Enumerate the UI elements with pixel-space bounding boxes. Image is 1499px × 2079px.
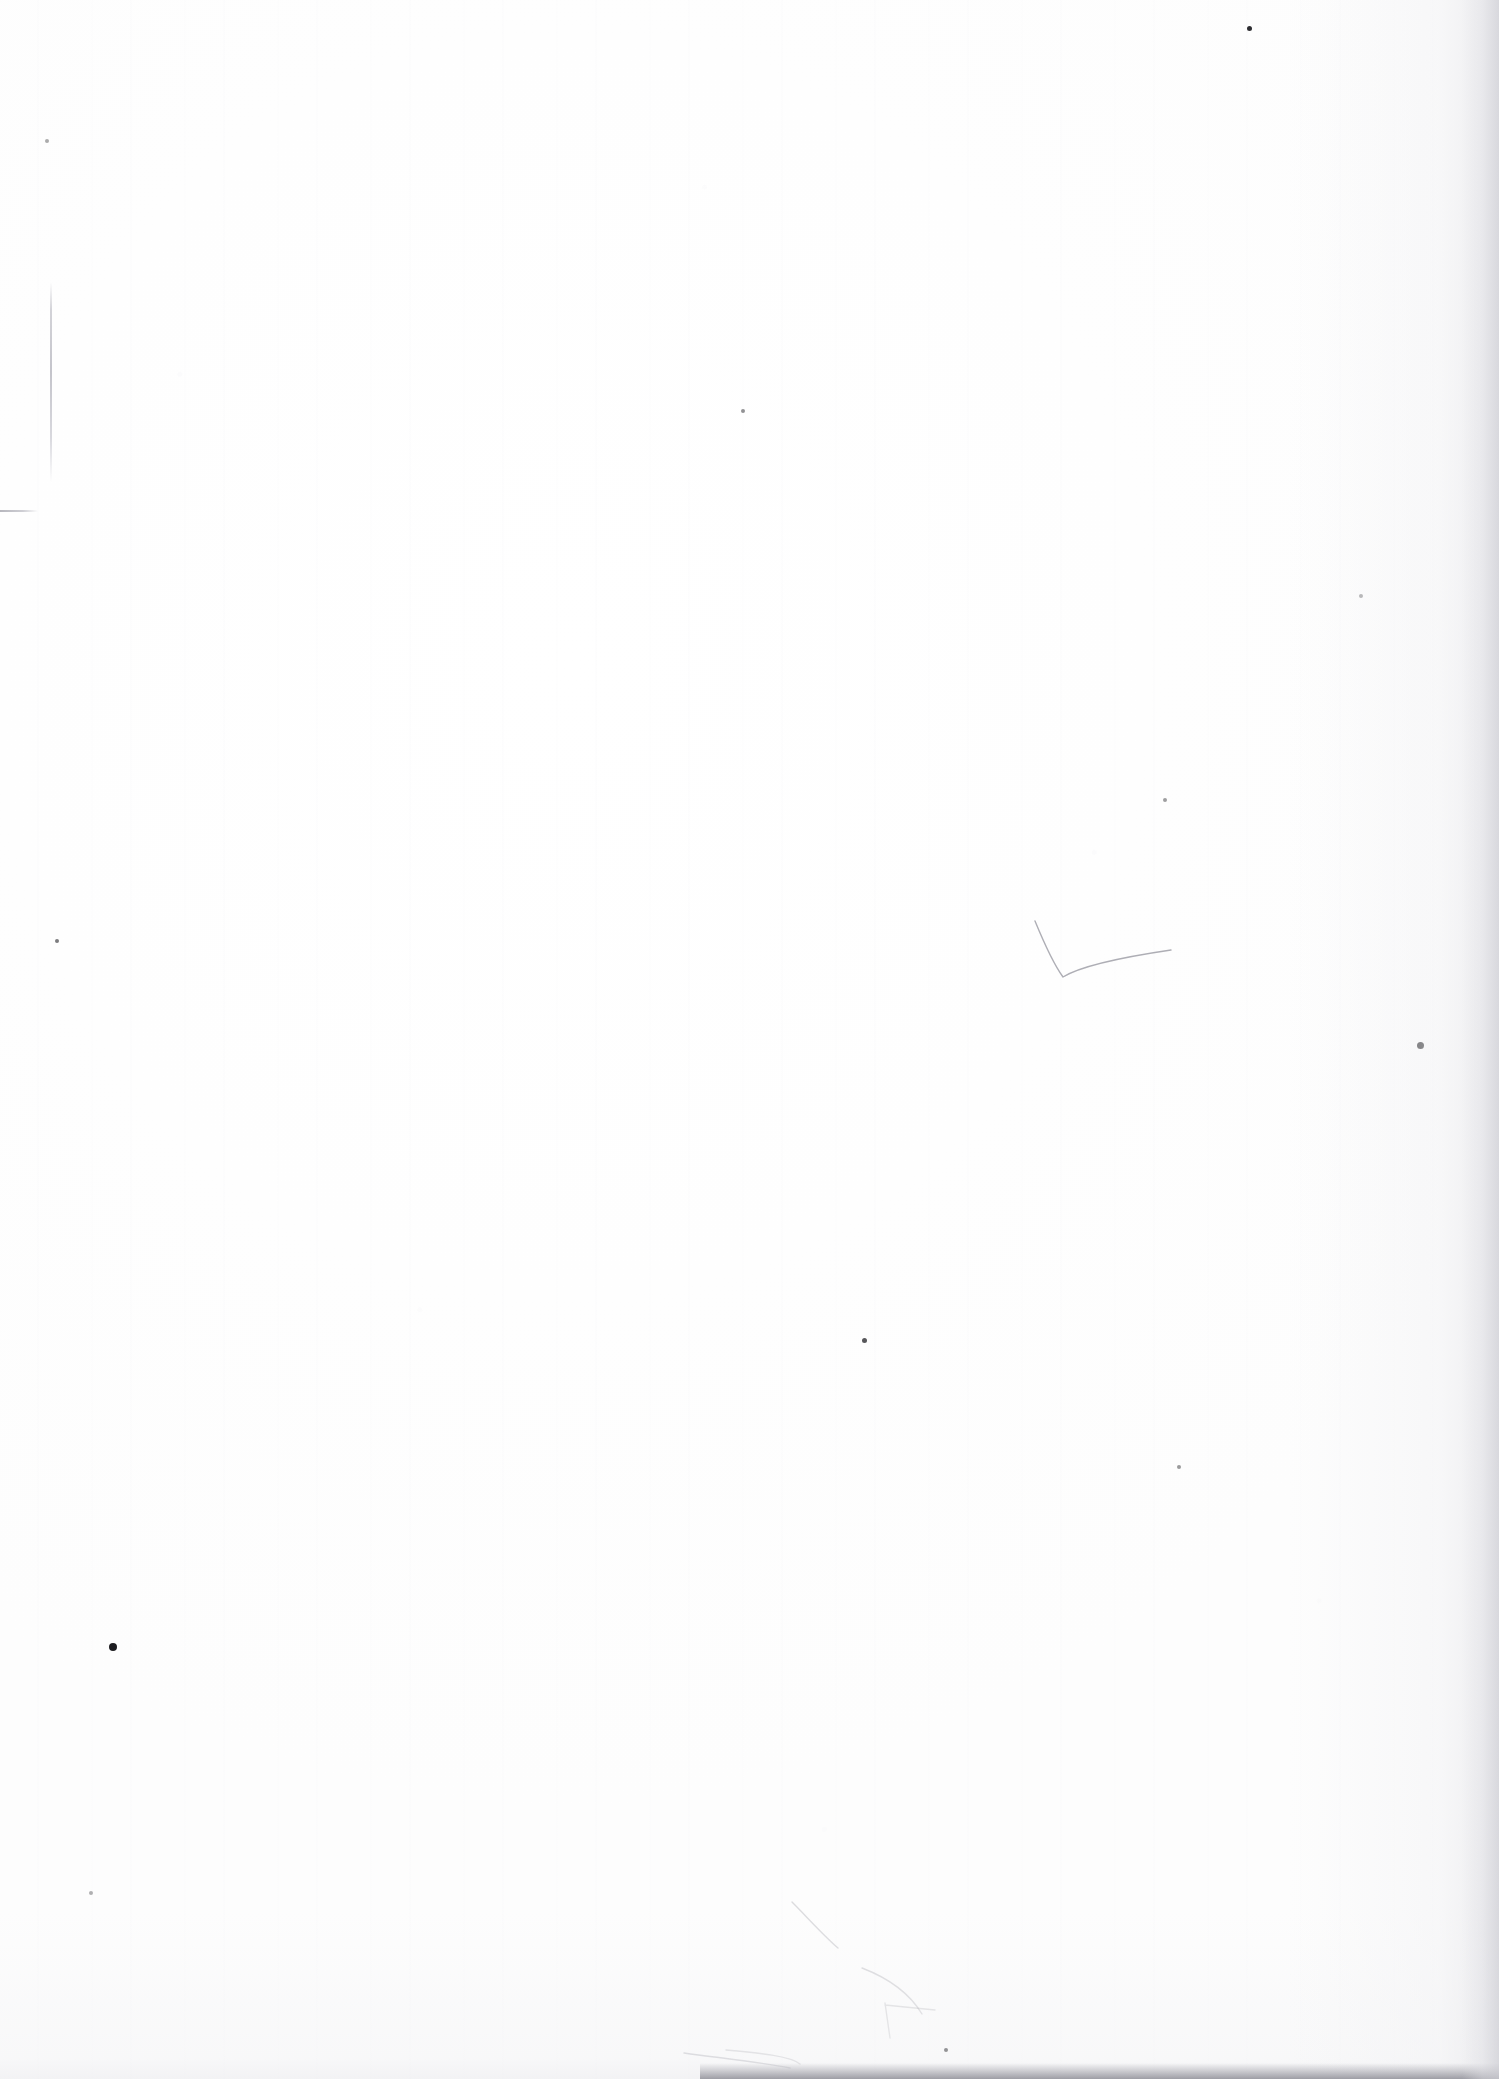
scanned-page <box>0 0 1499 2079</box>
shadow-bottom <box>700 2063 1499 2079</box>
edge-shadow-layer <box>0 0 1499 2079</box>
shadow-right <box>1462 0 1499 2079</box>
